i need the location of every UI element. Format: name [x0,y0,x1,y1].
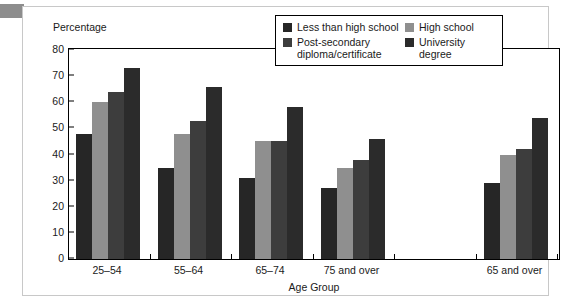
y-tick-mark [69,127,74,128]
x-group-label: 65 and over [487,264,542,276]
bar [321,188,337,259]
y-tick-mark [69,153,74,154]
bar [206,87,222,259]
x-group-label: 65–74 [255,264,284,276]
legend-label: University degree [419,36,496,60]
x-group-label: 55–64 [174,264,203,276]
legend-grid: Less than high schoolHigh schoolPost-sec… [283,21,496,60]
legend-swatch-icon [405,38,414,47]
y-tick-mark [69,101,74,102]
y-tick-mark [69,205,74,206]
x-group-label: 75 and over [324,264,379,276]
y-tick-label: 50 [52,121,64,133]
corner-marker [0,4,24,18]
plot-area: 01020304050607080 [69,49,559,259]
y-tick-label: 10 [52,226,64,238]
x-tick-mark [476,254,477,259]
y-tick-label: 30 [52,174,64,186]
bar [92,102,108,259]
legend-label: Post-secondarydiploma/certificate [297,36,382,60]
bar [174,134,190,259]
bar [337,168,353,259]
y-tick-label: 60 [52,95,64,107]
y-tick-mark [69,49,74,50]
y-tick-mark [69,179,74,180]
x-tick-mark [150,254,151,259]
x-axis-title: Age Group [289,281,340,293]
legend-entry: Less than high school [283,21,401,33]
bar [532,118,548,259]
bar [190,121,206,259]
legend-swatch-icon [283,38,292,47]
bar [124,68,140,259]
legend-entry: Post-secondarydiploma/certificate [283,36,401,60]
y-tick-mark [69,231,74,232]
plot-frame: 01020304050607080 [68,48,560,260]
y-tick-label: 40 [52,148,64,160]
legend-entry: University degree [405,36,496,60]
bar [76,134,92,259]
bar [108,92,124,259]
x-tick-mark [231,254,232,259]
legend-entry: High school [405,21,496,33]
x-tick-mark [394,254,395,259]
x-tick-mark [557,254,558,259]
y-tick-label: 70 [52,69,64,81]
x-tick-mark [313,254,314,259]
x-group-label: 25–54 [92,264,121,276]
legend-swatch-icon [283,23,292,32]
y-tick-mark [69,258,74,259]
y-tick-label: 80 [52,43,64,55]
legend-label: Less than high school [297,21,399,33]
bar [158,168,174,259]
y-axis-title: Percentage [53,21,107,33]
bar [369,139,385,259]
bar [500,155,516,260]
bar [255,141,271,259]
y-tick-label: 0 [58,252,64,264]
legend-swatch-icon [405,23,414,32]
bar [239,178,255,259]
y-tick-label: 20 [52,200,64,212]
bar [353,160,369,259]
figure-panel: Percentage 01020304050607080 25–5455–646… [22,6,549,296]
legend-label: High school [419,21,474,33]
chart-legend: Less than high schoolHigh schoolPost-sec… [275,15,503,66]
bar [516,149,532,259]
bar [287,107,303,259]
y-tick-mark [69,75,74,76]
bar [271,141,287,259]
bar [484,183,500,259]
